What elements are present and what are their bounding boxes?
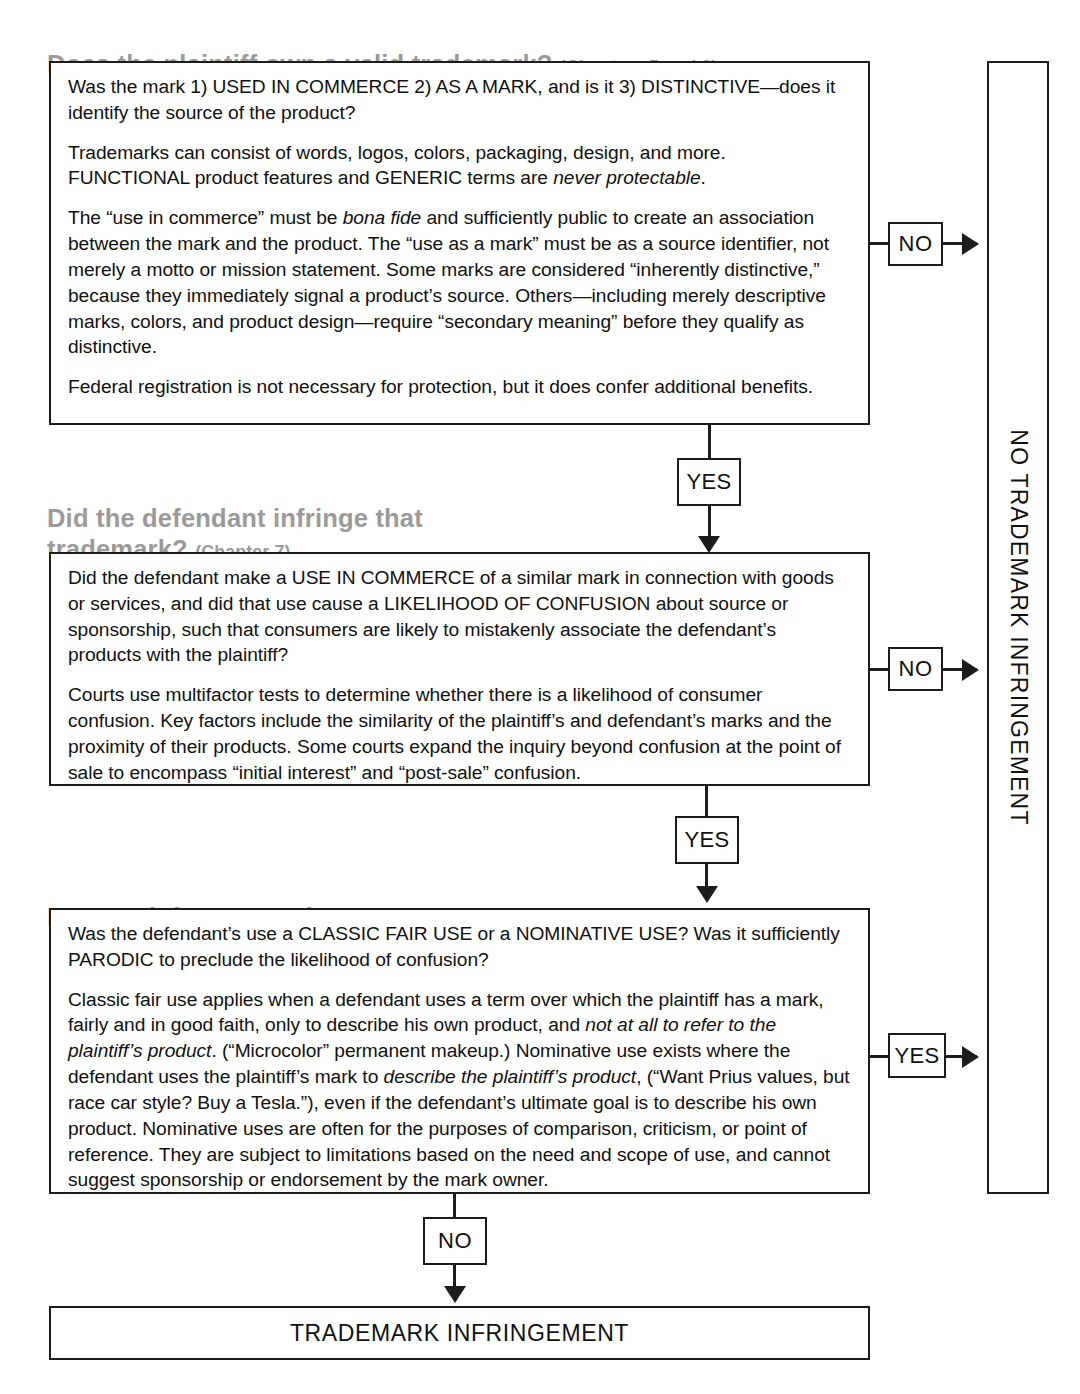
decision-defenses-no-label: NO (438, 1228, 472, 1254)
infringement-paragraph-2: Courts use multifactor tests to determin… (68, 682, 851, 785)
question-box-validity: Was the mark 1) USED IN COMMERCE 2) AS A… (49, 61, 870, 425)
flowchart-page: Does the plaintiff own a valid trademark… (0, 0, 1080, 1394)
decision-defenses-yes: YES (888, 1033, 946, 1078)
validity-paragraph-1: Was the mark 1) USED IN COMMERCE 2) AS A… (68, 74, 851, 126)
arrow-validity-no (962, 233, 979, 255)
infringement-paragraph-1: Did the defendant make a USE IN COMMERCE… (68, 565, 851, 668)
arrow-infringement-yes (696, 886, 718, 903)
question-box-infringement: Did the defendant make a USE IN COMMERCE… (49, 552, 870, 786)
decision-validity-yes: YES (677, 458, 741, 506)
decision-validity-no: NO (888, 222, 943, 266)
outcome-infringement-label: TRADEMARK INFRINGEMENT (290, 1320, 629, 1347)
validity-paragraph-3: The “use in commerce” must be bona fide … (68, 205, 851, 360)
outcome-no-infringement-label: NO TRADEMARK INFRINGEMENT (1005, 429, 1032, 825)
decision-infringement-yes-label: YES (684, 827, 729, 853)
decision-defenses-yes-label: YES (894, 1043, 939, 1069)
connector-validity-yes-top (708, 425, 711, 459)
connector-validity-no-left (868, 242, 890, 245)
connector-infringement-yes-top (705, 786, 708, 817)
decision-infringement-no-label: NO (899, 656, 933, 682)
decision-infringement-no: NO (888, 647, 943, 691)
question-box-defenses: Was the defendant’s use a CLASSIC FAIR U… (49, 908, 870, 1194)
arrow-defenses-yes (962, 1046, 979, 1068)
connector-infringement-no-left (868, 668, 890, 671)
arrow-validity-yes (698, 536, 720, 553)
arrow-infringement-no (962, 659, 979, 681)
outcome-no-infringement: NO TRADEMARK INFRINGEMENT (987, 61, 1049, 1194)
arrow-defenses-no (444, 1286, 466, 1303)
defenses-paragraph-1: Was the defendant’s use a CLASSIC FAIR U… (68, 921, 851, 973)
decision-validity-yes-label: YES (686, 469, 731, 495)
defenses-paragraph-2: Classic fair use applies when a defendan… (68, 987, 851, 1194)
validity-paragraph-4: Federal registration is not necessary fo… (68, 374, 851, 400)
validity-paragraph-2: Trademarks can consist of words, logos, … (68, 140, 851, 192)
connector-defenses-yes-left (868, 1055, 890, 1058)
decision-infringement-yes: YES (675, 816, 739, 864)
connector-defenses-no-top (453, 1194, 456, 1219)
decision-defenses-no: NO (423, 1217, 487, 1265)
decision-validity-no-label: NO (899, 231, 933, 257)
outcome-infringement: TRADEMARK INFRINGEMENT (49, 1306, 870, 1360)
